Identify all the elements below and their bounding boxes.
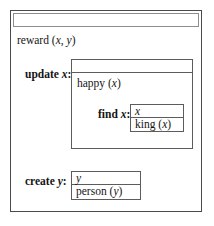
happy-args: (x) (108, 77, 121, 89)
title-bar (13, 13, 199, 27)
create-block-label: create y: (25, 174, 67, 188)
update-block-box: happy (x) find x: x king (x) (71, 59, 193, 149)
find-keyword: find (98, 108, 118, 120)
signature-name: reward (17, 34, 49, 46)
find-row-predicate: king (x) (131, 118, 183, 131)
create-keyword: create (25, 175, 55, 187)
update-keyword: update (25, 68, 59, 80)
signature-args: (x, y) (52, 34, 76, 46)
outer-frame: reward (x, y) update x: happy (x) find x… (10, 10, 202, 212)
create-block-box: y person (y) (71, 171, 141, 200)
find-row-predicate-text: king (x) (135, 117, 171, 131)
create-row-predicate: person (y) (72, 185, 140, 199)
procedure-signature: reward (x, y) (17, 33, 75, 47)
create-row-variable-text: y (76, 171, 81, 185)
update-block-header (72, 60, 192, 73)
update-block-body: happy (x) (77, 76, 121, 90)
happy-predicate: happy (77, 77, 105, 89)
update-block-label: update x: (25, 67, 71, 81)
create-row-predicate-text: person (y) (76, 184, 122, 198)
find-block-label: find x: (98, 107, 130, 121)
diagram-canvas: reward (x, y) update x: happy (x) find x… (0, 0, 214, 226)
find-row-variable-text: x (135, 104, 140, 118)
find-block-box: x king (x) (130, 104, 184, 132)
